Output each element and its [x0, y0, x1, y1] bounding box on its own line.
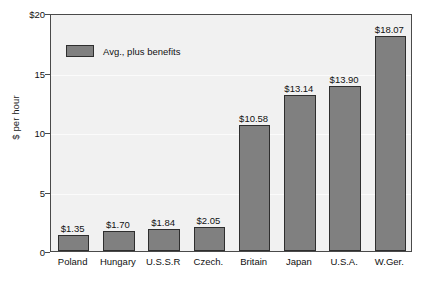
- x-axis-label: Britain: [231, 256, 276, 267]
- y-tick-label: 10: [34, 128, 45, 139]
- x-axis-label: Japan: [276, 256, 321, 267]
- bar-value-label: $1.35: [50, 223, 95, 234]
- bar-czech: [194, 227, 226, 251]
- bar-hungary: [103, 231, 135, 251]
- bar-value-label: $1.70: [95, 219, 140, 230]
- bar-value-label: $10.58: [231, 113, 276, 124]
- bar-value-label: $13.90: [322, 74, 367, 85]
- x-axis-label: U.S.A.: [322, 256, 367, 267]
- bar-value-label: $1.84: [141, 217, 186, 228]
- y-axis-ticks: 051015$20: [0, 0, 48, 287]
- bar-u-s-a: [329, 86, 361, 251]
- bar-value-label: $13.14: [276, 83, 321, 94]
- x-axis-label: W.Ger.: [367, 256, 412, 267]
- y-tick-label: 15: [34, 68, 45, 79]
- legend-label-avg-plus-benefits: Avg., plus benefits: [103, 46, 180, 57]
- bar-chart: $ per hour 051015$20 Avg., plus benefits…: [0, 0, 426, 287]
- x-axis-label: Czech.: [186, 256, 231, 267]
- bar-value-label: $18.07: [367, 24, 412, 35]
- bar-japan: [284, 95, 316, 251]
- x-axis-label: Poland: [50, 256, 95, 267]
- chart-legend: Avg., plus benefits: [66, 45, 180, 57]
- bar-value-label: $2.05: [186, 215, 231, 226]
- bar-britain: [239, 125, 271, 251]
- y-tick-label: $20: [29, 9, 45, 20]
- x-axis-label: Hungary: [95, 256, 140, 267]
- legend-swatch-avg-plus-benefits: [66, 45, 94, 57]
- bar-poland: [58, 235, 90, 251]
- x-axis-label: U.S.S.R: [141, 256, 186, 267]
- bar-w-ger: [375, 36, 407, 251]
- bar-u-s-s-r: [148, 229, 180, 251]
- y-tick-mark: [45, 252, 50, 253]
